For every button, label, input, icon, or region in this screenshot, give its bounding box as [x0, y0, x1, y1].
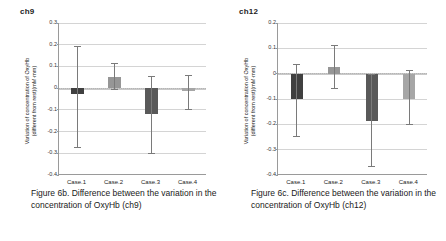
x-axis-label-case-1: Case.1 — [67, 179, 86, 185]
gridline — [59, 23, 206, 24]
y-axis-tickmark — [57, 88, 59, 89]
gridline — [278, 149, 427, 150]
y-axis-tickmark — [57, 109, 59, 110]
y-axis-tickmark — [57, 153, 59, 154]
plot-area-ch12: 0.20.10-0.1-0.2-0.3-0.4 — [277, 23, 427, 175]
y-axis-tickmark — [276, 23, 278, 24]
error-bar-case-1 — [296, 64, 297, 136]
figure-panel-ch12: ch12 Variation of concentration of OxyHb… — [223, 0, 446, 241]
gridline — [59, 66, 206, 67]
gridline — [278, 48, 427, 49]
y-axis-tickmark — [57, 175, 59, 176]
y-axis-title-ch12: Variation of concentration of OxyHb (dif… — [243, 26, 257, 176]
figure-panel-ch9: ch9 Variation of concentration of OxyHb … — [0, 0, 223, 241]
error-cap-upper — [293, 64, 300, 65]
y-axis-tickmark — [57, 44, 59, 45]
plot-area-ch9: 0.30.20.10-0.1-0.2-0.3-0.4 — [58, 23, 206, 175]
error-cap-lower — [185, 109, 192, 110]
error-cap-lower — [74, 147, 81, 148]
y-axis-title-ch9: Variation of concentration of OxyHb (dif… — [24, 26, 38, 176]
y-axis-tickmark — [276, 73, 278, 74]
y-axis-tick-label: -0.2 — [48, 129, 57, 135]
error-cap-upper — [406, 70, 413, 71]
error-cap-lower — [111, 89, 118, 90]
error-cap-upper — [185, 75, 192, 76]
y-axis-tickmark — [57, 131, 59, 132]
x-axis-label-case-4: Case.4 — [178, 179, 197, 185]
y-axis-tick-label: 0.2 — [268, 20, 276, 26]
y-axis-title-line1: Variation of concentration of OxyHb — [24, 26, 31, 176]
error-bar-case-4 — [409, 70, 410, 124]
y-axis-title-line2: (different from rest)(mM·mm) — [31, 26, 38, 176]
y-axis-tick-label: 0.1 — [49, 64, 57, 70]
figure-caption-ch9: Figure 6b. Difference between the variat… — [31, 187, 221, 212]
figure-pair: ch9 Variation of concentration of OxyHb … — [0, 0, 446, 241]
y-axis-tick-label: 0.1 — [268, 46, 276, 52]
error-cap-lower — [148, 153, 155, 154]
y-axis-tick-label: 0.3 — [49, 20, 57, 26]
figure-caption-ch12: Figure 6c. Difference between the variat… — [251, 187, 441, 212]
chart-title-ch9: ch9 — [20, 7, 34, 16]
error-cap-lower — [368, 166, 375, 167]
gridline — [59, 153, 206, 154]
y-axis-tick-label: 0 — [273, 71, 276, 77]
error-bar-case-2 — [334, 45, 335, 88]
error-cap-lower — [331, 88, 338, 89]
y-axis-tickmark — [276, 99, 278, 100]
gridline — [59, 131, 206, 132]
error-bar-case-3 — [151, 76, 152, 153]
error-bar-case-1 — [77, 46, 78, 147]
y-axis-tick-label: -0.4 — [48, 172, 57, 178]
error-cap-upper — [368, 74, 375, 75]
chart-title-ch12: ch12 — [239, 7, 258, 16]
y-axis-title-line2: (different from rest)(mM·mm) — [250, 26, 257, 176]
y-axis-tick-label: -0.3 — [267, 147, 276, 153]
y-axis-tickmark — [276, 175, 278, 176]
x-axis-label-case-1: Case.1 — [286, 179, 305, 185]
error-cap-upper — [111, 63, 118, 64]
error-cap-upper — [148, 76, 155, 77]
x-axis-label-case-3: Case.3 — [141, 179, 160, 185]
error-bar-case-2 — [114, 63, 115, 89]
error-bar-case-4 — [188, 75, 189, 109]
y-axis-tick-label: -0.4 — [267, 172, 276, 178]
y-axis-tick-label: -0.1 — [267, 96, 276, 102]
error-bar-case-3 — [371, 74, 372, 166]
error-cap-lower — [406, 124, 413, 125]
y-axis-tickmark — [276, 149, 278, 150]
x-axis-label-case-4: Case.4 — [399, 179, 418, 185]
y-axis-title-line1: Variation of concentration of OxyHb — [243, 26, 250, 176]
error-cap-lower — [293, 136, 300, 137]
error-cap-upper — [331, 45, 338, 46]
error-cap-upper — [74, 46, 81, 47]
x-axis-label-case-3: Case.3 — [361, 179, 380, 185]
x-axis-label-case-2: Case.2 — [324, 179, 343, 185]
gridline — [59, 109, 206, 110]
gridline — [59, 44, 206, 45]
y-axis-tick-label: -0.1 — [48, 107, 57, 113]
y-axis-tick-label: -0.3 — [48, 151, 57, 157]
x-axis-label-case-2: Case.2 — [104, 179, 123, 185]
y-axis-tickmark — [276, 48, 278, 49]
y-axis-tickmark — [57, 66, 59, 67]
y-axis-tickmark — [57, 23, 59, 24]
y-axis-tickmark — [276, 124, 278, 125]
y-axis-tick-label: -0.2 — [267, 122, 276, 128]
gridline — [278, 23, 427, 24]
y-axis-tick-label: 0.2 — [49, 42, 57, 48]
y-axis-tick-label: 0 — [54, 85, 57, 91]
gridline — [278, 124, 427, 125]
